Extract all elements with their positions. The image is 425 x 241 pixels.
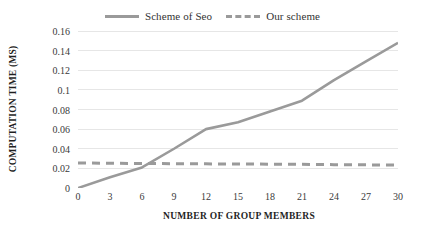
y-axis-title: COMPUTATION TIME (MS) <box>4 28 22 190</box>
plot-area <box>78 31 398 188</box>
x-axis-tick-labels: 036912151821242730 <box>78 191 398 207</box>
x-axis-tick-label: 24 <box>329 191 339 202</box>
series-line-our-scheme <box>78 163 398 165</box>
x-axis-tick-label: 27 <box>361 191 371 202</box>
x-axis-tick-label: 21 <box>297 191 307 202</box>
x-axis-tick-label: 9 <box>172 191 177 202</box>
y-axis-title-text: COMPUTATION TIME (MS) <box>8 46 18 173</box>
chart-legend: Scheme of Seo Our scheme <box>0 7 425 25</box>
dashed-line-swatch-icon <box>226 15 260 18</box>
legend-label-our-scheme: Our scheme <box>266 10 320 22</box>
x-axis-tick-label: 12 <box>201 191 211 202</box>
y-axis-tick-label: 0.06 <box>53 124 71 135</box>
x-axis-tick-label: 30 <box>393 191 403 202</box>
y-axis-tick-labels: 0.160.140.120.10.080.060.040.020 <box>24 31 74 188</box>
chart-container: Scheme of Seo Our scheme COMPUTATION TIM… <box>0 0 425 241</box>
y-axis-tick-label: 0.08 <box>53 104 71 115</box>
y-axis-tick-label: 0.14 <box>53 45 71 56</box>
plot-svg <box>78 31 398 188</box>
x-axis-title: NUMBER OF GROUP MEMBERS <box>78 211 400 221</box>
x-axis-tick-label: 3 <box>108 191 113 202</box>
y-axis-tick-label: 0.16 <box>53 26 71 37</box>
legend-item-our-scheme[interactable]: Our scheme <box>226 10 320 22</box>
x-axis-tick-label: 0 <box>76 191 81 202</box>
legend-item-scheme-of-seo[interactable]: Scheme of Seo <box>105 10 212 22</box>
y-axis-tick-label: 0.02 <box>53 163 71 174</box>
x-axis-tick-label: 6 <box>140 191 145 202</box>
y-axis-tick-label: 0.1 <box>58 84 71 95</box>
solid-line-swatch-icon <box>105 15 139 18</box>
x-axis-tick-label: 18 <box>265 191 275 202</box>
data-series-group <box>78 43 398 188</box>
y-axis-tick-label: 0.04 <box>53 143 71 154</box>
y-axis-tick-label: 0 <box>65 183 70 194</box>
x-axis-tick-label: 15 <box>233 191 243 202</box>
legend-label-scheme-of-seo: Scheme of Seo <box>145 10 212 22</box>
y-axis-tick-label: 0.12 <box>53 65 71 76</box>
